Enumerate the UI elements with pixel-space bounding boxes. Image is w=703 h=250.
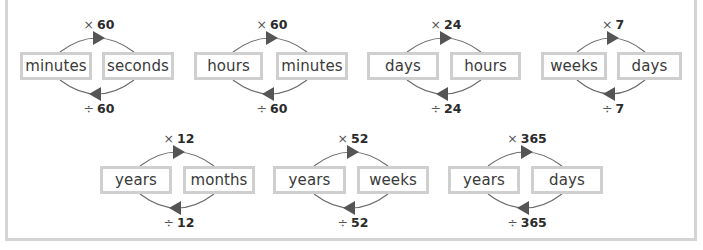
- multiply-label: ×365: [507, 131, 547, 146]
- multiply-label: ×24: [431, 17, 462, 32]
- divide-label: ÷60: [257, 101, 288, 116]
- unit-box-months: months: [183, 166, 255, 194]
- unit-box-minutes: minutes: [20, 52, 92, 80]
- unit-box-years: years: [448, 166, 520, 194]
- unit-box-years: years: [100, 166, 172, 194]
- unit-box-hours: hours: [450, 52, 521, 80]
- unit-box-days: days: [531, 166, 603, 194]
- multiply-label: ×60: [84, 17, 115, 32]
- divide-label: ÷24: [431, 101, 462, 116]
- unit-box-weeks: weeks: [357, 166, 429, 194]
- unit-box-weeks: weeks: [541, 52, 607, 80]
- multiply-label: ×12: [164, 131, 195, 146]
- unit-box-years: years: [273, 166, 346, 194]
- unit-box-days: days: [617, 52, 682, 80]
- multiply-label: ×60: [257, 17, 288, 32]
- unit-box-days: days: [367, 52, 439, 80]
- divide-label: ÷365: [507, 215, 547, 230]
- conversion-arrows: [0, 0, 703, 250]
- unit-box-hours: hours: [194, 52, 263, 80]
- multiply-label: ×7: [602, 17, 624, 32]
- unit-box-minutes: minutes: [276, 52, 348, 80]
- unit-box-seconds: seconds: [102, 52, 174, 80]
- divide-label: ÷12: [164, 215, 195, 230]
- divide-label: ÷52: [338, 215, 369, 230]
- divide-label: ÷7: [602, 101, 624, 116]
- divide-label: ÷60: [84, 101, 115, 116]
- multiply-label: ×52: [338, 131, 369, 146]
